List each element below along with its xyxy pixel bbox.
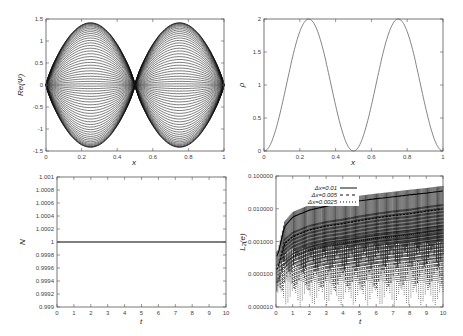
rho-curve — [264, 19, 443, 151]
psi-curve — [46, 85, 224, 102]
y-tick-label: 1 — [40, 38, 44, 44]
psi-curve — [46, 26, 224, 85]
x-tick-label: 0.2 — [77, 154, 86, 160]
x-tick-label: 3 — [106, 310, 110, 316]
y-tick-label: 0.9994 — [36, 278, 55, 284]
x-tick-label: 5 — [358, 310, 362, 316]
psi-curve — [46, 25, 224, 85]
y-tick-label: 1 — [258, 82, 262, 88]
y-tick-label: 1.0004 — [36, 213, 55, 219]
psi-curve — [46, 68, 224, 85]
psi-curve — [46, 85, 224, 138]
y-tick-label: 0.100000 — [248, 173, 274, 179]
x-tick-label: 4 — [341, 310, 345, 316]
psi-curve — [46, 85, 224, 94]
y-tick-label: 0.010000 — [248, 206, 274, 212]
panel-rho: 00.20.40.60.8100.511.52 — [253, 16, 446, 160]
psi-curve — [46, 85, 224, 96]
psi-curve — [46, 85, 224, 125]
y-axis-label-bl: N — [18, 239, 27, 245]
y-tick-label: 1.5 — [35, 16, 44, 22]
x-axis-label-tr: x — [350, 158, 356, 167]
x-tick-label: 7 — [391, 310, 395, 316]
y-tick-label: 0 — [40, 82, 44, 88]
psi-curve — [46, 74, 224, 85]
x-tick-label: 1 — [441, 154, 445, 160]
x-axis-label-bl: t — [140, 317, 143, 326]
x-tick-label: 10 — [440, 310, 447, 316]
y-tick-label: 0.9992 — [36, 291, 55, 297]
psi-curve — [46, 34, 224, 85]
psi-curve — [46, 85, 224, 122]
y-tick-label: 0.999 — [39, 304, 55, 310]
psi-curve — [46, 27, 224, 85]
x-tick-label: 10 — [223, 310, 230, 316]
x-tick-label: 0.2 — [296, 154, 305, 160]
figure: 00.20.40.60.81-1.5-1-0.500.511.5 x Re(Ψ)… — [0, 0, 463, 336]
psi-curve — [46, 85, 224, 130]
x-tick-label: 0.6 — [149, 154, 158, 160]
psi-curve — [46, 85, 224, 136]
x-tick-label: 1 — [291, 310, 295, 316]
psi-curve — [46, 60, 224, 86]
legend-entry-dx-0.01: Δx=0.01 — [314, 185, 337, 191]
psi-curve — [46, 43, 224, 85]
x-tick-label: 7 — [174, 310, 178, 316]
psi-curve — [46, 54, 224, 85]
y-tick-label: 1 — [51, 239, 55, 245]
x-tick-label: 0.4 — [331, 154, 340, 160]
psi-curve — [46, 30, 224, 85]
psi-curve — [46, 48, 224, 85]
x-tick-label: 0 — [274, 310, 278, 316]
y-tick-label: -1 — [38, 126, 44, 132]
legend-entry-dx-0.0025: Δx=0.0025 — [307, 199, 338, 205]
panel-re-psi: 00.20.40.60.81-1.5-1-0.500.511.5 — [33, 16, 227, 160]
psi-curve — [46, 85, 224, 111]
x-tick-label: 9 — [425, 310, 429, 316]
x-tick-label: 0.8 — [403, 154, 412, 160]
y-tick-label: 0.9996 — [36, 265, 55, 271]
y-tick-label: 1.0002 — [36, 226, 55, 232]
x-tick-label: 2 — [89, 310, 93, 316]
x-tick-label: 1 — [222, 154, 226, 160]
x-tick-label: 6 — [375, 310, 379, 316]
y-axis-label-br: L₂(e) — [238, 233, 247, 251]
x-tick-label: 0.4 — [113, 154, 122, 160]
x-tick-label: 0 — [44, 154, 48, 160]
panel-l2-error: 0123456789100.0000100.0001000.0010000.01… — [248, 173, 447, 316]
x-tick-label: 1 — [72, 310, 76, 316]
psi-curve — [46, 76, 224, 85]
x-tick-label: 6 — [157, 310, 161, 316]
psi-curve — [46, 85, 224, 99]
x-tick-label: 0.6 — [367, 154, 376, 160]
psi-curve — [46, 62, 224, 85]
psi-curve — [46, 46, 224, 86]
y-tick-label: 0.000100 — [248, 271, 274, 277]
y-tick-label: 0.000010 — [248, 304, 274, 310]
x-tick-label: 8 — [408, 310, 412, 316]
psi-curve — [46, 32, 224, 85]
x-tick-label: 4 — [123, 310, 127, 316]
y-tick-label: 1.0006 — [36, 200, 55, 206]
plot-frame — [264, 19, 443, 151]
x-tick-label: 9 — [207, 310, 211, 316]
psi-curve — [46, 85, 224, 116]
y-tick-label: 0.5 — [253, 115, 262, 121]
y-tick-label: 0.9998 — [36, 252, 55, 258]
y-tick-label: 1.5 — [253, 49, 262, 55]
psi-curve — [46, 85, 224, 144]
x-axis-label-tl: x — [131, 158, 137, 167]
x-tick-label: 3 — [324, 310, 328, 316]
panel-norm: 0123456789100.9990.99920.99940.99960.999… — [36, 174, 230, 316]
y-tick-label: 0.5 — [35, 60, 44, 66]
y-tick-label: 1.001 — [39, 174, 55, 180]
x-tick-label: 8 — [191, 310, 195, 316]
psi-curve — [46, 38, 224, 85]
y-tick-label: -0.5 — [33, 104, 44, 110]
y-tick-label: 1.0008 — [36, 187, 55, 193]
x-tick-label: 0 — [55, 310, 59, 316]
y-tick-label: -1.5 — [33, 148, 44, 154]
x-tick-label: 0 — [262, 154, 266, 160]
psi-curve — [46, 40, 224, 85]
x-axis-label-br: t — [359, 317, 362, 326]
